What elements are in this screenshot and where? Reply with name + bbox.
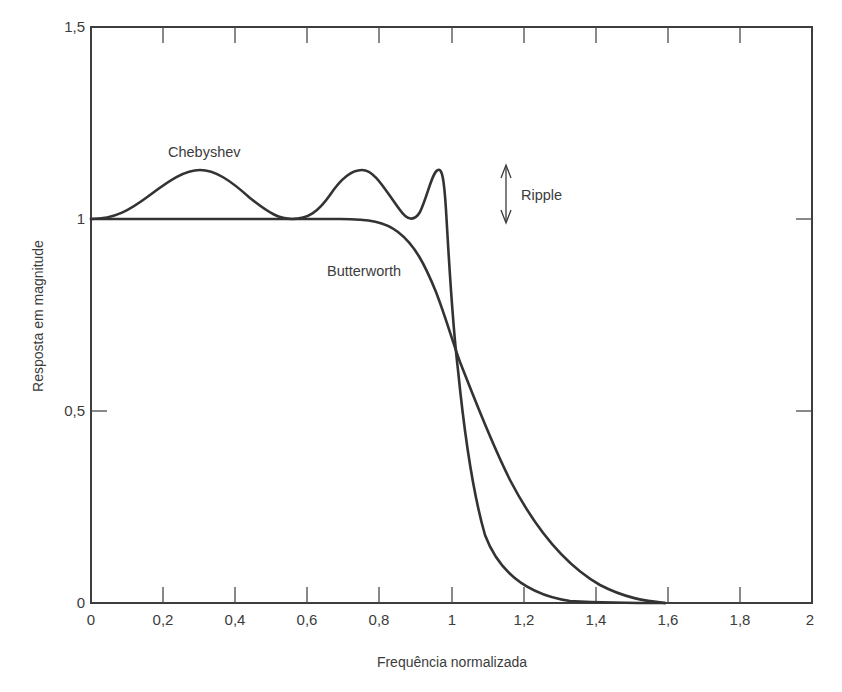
svg-text:0,2: 0,2 [153, 611, 174, 628]
x-ticks [163, 27, 740, 603]
chebyshev-label: Chebyshev [168, 144, 241, 160]
butterworth-label: Butterworth [327, 263, 401, 279]
svg-text:0,8: 0,8 [369, 611, 390, 628]
ripple-label: Ripple [521, 187, 562, 203]
x-axis-title: Frequência normalizada [377, 654, 527, 670]
svg-text:1,8: 1,8 [730, 611, 751, 628]
svg-text:1,5: 1,5 [64, 18, 85, 35]
svg-text:1,2: 1,2 [514, 611, 535, 628]
svg-text:2: 2 [806, 611, 814, 628]
y-ticks [91, 219, 812, 411]
svg-text:0: 0 [77, 594, 85, 611]
filter-response-chart: 0 0,2 0,4 0,6 0,8 1 1,2 1,4 1,6 1,8 2 0 … [0, 0, 842, 692]
svg-text:0: 0 [87, 611, 95, 628]
svg-text:1: 1 [448, 611, 456, 628]
svg-text:0,5: 0,5 [64, 402, 85, 419]
svg-text:0,6: 0,6 [297, 611, 318, 628]
svg-text:1,6: 1,6 [658, 611, 679, 628]
plot-frame [91, 27, 812, 603]
svg-text:0,4: 0,4 [225, 611, 246, 628]
x-tick-labels: 0 0,2 0,4 0,6 0,8 1 1,2 1,4 1,6 1,8 2 [87, 611, 814, 628]
chebyshev-curve [91, 170, 665, 603]
y-axis-title: Resposta em magnitude [30, 240, 46, 392]
y-tick-labels: 0 0,5 1 1,5 [64, 18, 85, 611]
svg-text:1,4: 1,4 [586, 611, 607, 628]
ripple-arrow-icon [501, 165, 511, 223]
svg-text:1: 1 [77, 210, 85, 227]
